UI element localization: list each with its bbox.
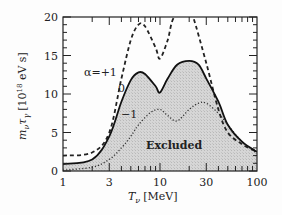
y-axis-exp: 18 bbox=[16, 84, 24, 93]
x-axis-label: Tν[MeV] bbox=[128, 190, 178, 205]
tick-label: 10 bbox=[44, 88, 58, 101]
tick-label: 30 bbox=[199, 176, 213, 189]
tick-label: 10 bbox=[153, 176, 167, 189]
tick-label: 20 bbox=[44, 11, 58, 24]
tick-label: 3 bbox=[106, 176, 113, 189]
y-axis-label: mντγ[1018 eV s] bbox=[16, 52, 31, 140]
tick-label: 5 bbox=[51, 127, 58, 140]
label-alpha-minus1: −1 bbox=[121, 108, 137, 121]
label-excluded: Excluded bbox=[146, 139, 203, 152]
y-axis-m: m bbox=[16, 130, 29, 140]
tick-label: 15 bbox=[44, 50, 58, 63]
label-alpha-0: 0 bbox=[118, 82, 125, 95]
x-axis-unit: [MeV] bbox=[143, 190, 177, 203]
label-alpha-plus1: α=+1 bbox=[84, 66, 117, 79]
y-axis-sub2: γ bbox=[22, 114, 31, 119]
tick-label: 1 bbox=[60, 176, 67, 189]
y-axis-unit2: eV s] bbox=[16, 52, 29, 83]
chart: 13103010005101520 α=+1 0 −1 Excluded Tν[… bbox=[0, 0, 282, 215]
tick-label: 0 bbox=[51, 165, 58, 178]
x-axis-sub: ν bbox=[135, 196, 140, 205]
tick-label: 100 bbox=[247, 176, 268, 189]
y-axis-unit: [10 bbox=[16, 93, 29, 111]
